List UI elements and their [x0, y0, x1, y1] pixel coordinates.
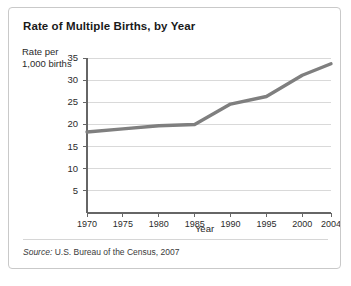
source-text: U.S. Bureau of the Census, 2007: [55, 247, 180, 257]
y-tick-label: 20: [58, 118, 78, 129]
y-tick-label: 35: [58, 52, 78, 63]
y-tick-label: 15: [58, 141, 78, 152]
source-prefix: Source:: [23, 247, 52, 257]
chart-figure: Rate of Multiple Births, by Year Rate pe…: [8, 7, 341, 269]
y-tick-label: 30: [58, 74, 78, 85]
x-axis-label-text: Year: [137, 223, 214, 234]
source-divider: [23, 239, 328, 240]
x-axis-label: Year: [9, 223, 341, 234]
y-tick-label: 25: [58, 96, 78, 107]
gridlines: [87, 58, 331, 191]
y-tick-label: 5: [58, 185, 78, 196]
data-line-series-1: [87, 64, 331, 132]
source-note: Source: U.S. Bureau of the Census, 2007: [23, 247, 179, 257]
y-tick-label: 10: [58, 163, 78, 174]
